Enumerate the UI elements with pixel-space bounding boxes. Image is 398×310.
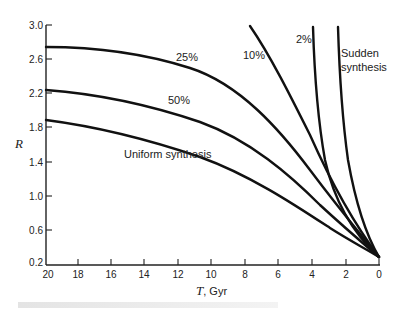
x-tick-label: 6 (275, 269, 281, 280)
x-ticks: 20 18 16 14 12 10 8 6 4 2 0 (42, 259, 382, 280)
label-uniform-synthesis: Uniform synthesis (124, 148, 212, 160)
x-tick-label: 18 (72, 269, 84, 280)
x-tick-label: 12 (172, 269, 184, 280)
y-tick-label: 2.2 (29, 88, 43, 99)
label-25-percent: 25% (176, 51, 198, 63)
x-tick-label: 16 (105, 269, 117, 280)
y-tick-label: 1.8 (29, 122, 43, 133)
curve-25-percent (46, 47, 379, 257)
x-tick-label: 20 (42, 269, 54, 280)
label-10-percent: 10% (243, 49, 265, 61)
x-tick-label: 14 (138, 269, 150, 280)
x-axis-unit: , Gyr (203, 285, 227, 297)
x-tick-label: 0 (376, 269, 382, 280)
chart: 3.0 2.6 2.2 1.8 1.4 1.0 0.6 0.2 20 18 16… (0, 0, 398, 310)
curve-uniform-synthesis (46, 120, 379, 257)
y-ticks: 3.0 2.6 2.2 1.8 1.4 1.0 0.6 0.2 (29, 20, 52, 268)
label-2-percent: 2% (296, 33, 312, 45)
x-tick-label: 8 (242, 269, 248, 280)
x-tick-label: 2 (343, 269, 349, 280)
figure-caption-cropped (18, 302, 278, 308)
y-tick-label: 2.6 (29, 54, 43, 65)
y-tick-label: 0.2 (29, 257, 43, 268)
y-axis-title: R (14, 136, 23, 151)
x-axis-title: T, Gyr (196, 283, 227, 298)
label-sudden: Sudden (341, 47, 379, 59)
x-tick-label: 4 (309, 269, 315, 280)
label-50-percent: 50% (168, 94, 190, 106)
y-tick-label: 3.0 (29, 20, 43, 31)
y-tick-label: 0.6 (29, 225, 43, 236)
label-synthesis: synthesis (341, 61, 387, 73)
x-tick-label: 10 (205, 269, 217, 280)
y-tick-label: 1.0 (29, 191, 43, 202)
y-tick-label: 1.4 (29, 157, 43, 168)
